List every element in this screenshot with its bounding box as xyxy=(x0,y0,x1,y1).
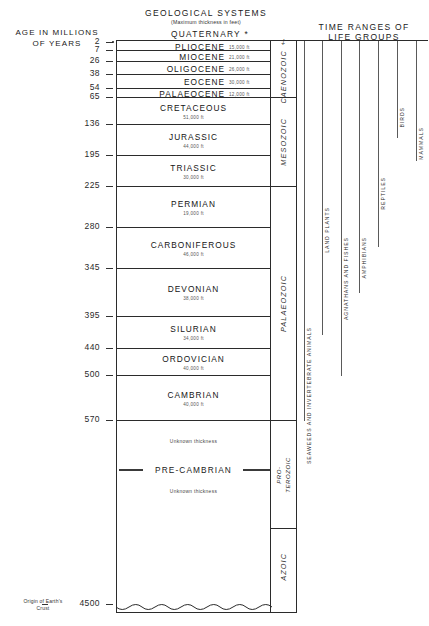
system-thickness: 34,000 ft xyxy=(117,336,270,341)
age-value: 65 xyxy=(60,91,100,101)
age-tick xyxy=(106,604,113,605)
age-tick xyxy=(106,186,113,187)
system-thickness: 19,000 ft xyxy=(117,211,270,216)
system-thickness: 30,000 ft xyxy=(117,175,270,180)
unknown-thickness-label: Unknown thickness xyxy=(117,489,270,494)
life-group-range-line xyxy=(378,41,379,247)
age-tick xyxy=(106,50,113,51)
system-thickness: 44,000 ft xyxy=(117,144,270,149)
geological-time-scale-chart: GEOLOGICAL SYSTEMS (Maximum thickness in… xyxy=(0,0,429,626)
system-name: PERMIAN xyxy=(117,199,270,209)
age-value: 570 xyxy=(60,414,100,424)
age-tick xyxy=(106,420,113,421)
origin-note-line2: Crust xyxy=(37,605,50,611)
wavy-base-line xyxy=(116,604,272,614)
system-thickness: 12,000 ft xyxy=(229,92,250,97)
era-label: PALAEOZOIC xyxy=(279,275,288,332)
age-tick xyxy=(106,61,113,62)
systems-title: GEOLOGICAL SYSTEMS xyxy=(116,8,296,18)
system-thickness: 15,000 ft xyxy=(229,45,250,50)
era-label: CAENOZOIC ‡ xyxy=(279,37,288,104)
life-group-label: AGNATHANS AND FISHES xyxy=(343,237,349,320)
life-group-range-line xyxy=(359,41,360,293)
unknown-thickness-label: Unknown thickness xyxy=(117,439,270,444)
system-thickness: 38,000 ft xyxy=(117,296,270,301)
age-tick xyxy=(106,227,113,228)
era-cell: MESOZOIC xyxy=(271,98,296,187)
system-name: MIOCENE xyxy=(117,52,225,62)
system-row xyxy=(117,421,270,605)
age-value: 280 xyxy=(60,221,100,231)
system-name: CARBONIFEROUS xyxy=(117,240,270,250)
system-thickness: 26,000 ft xyxy=(229,67,250,72)
origin-note-line1: Origin of Earth's xyxy=(23,598,62,604)
age-value: 38 xyxy=(60,68,100,78)
life-groups-panel: SEAWEEDS AND INVERTEBRATE ANIMALSLAND PL… xyxy=(297,40,428,613)
quaternary-marker-dot xyxy=(112,41,114,43)
system-thickness: 40,000 ft xyxy=(117,366,270,371)
life-group-range-line xyxy=(416,41,417,161)
age-value: 345 xyxy=(60,262,100,272)
era-cell: CAENOZOIC ‡ xyxy=(271,43,296,98)
system-name: CAMBRIAN xyxy=(117,390,270,400)
geological-systems-column: PLIOCENE15,000 ftMIOCENE21,000 ftOLIGOCE… xyxy=(116,40,271,613)
age-tick xyxy=(106,155,113,156)
era-label: AZOIC xyxy=(279,553,288,581)
life-group-range-line xyxy=(341,41,342,376)
era-column: CAENOZOIC ‡MESOZOICPALAEOZOICPRO-TEROZOI… xyxy=(271,40,297,613)
life-group-label: BIRDS xyxy=(399,107,405,128)
age-value: 26 xyxy=(60,55,100,65)
life-group-range-line xyxy=(304,41,305,421)
age-value: 136 xyxy=(60,118,100,128)
system-name: EOCENE xyxy=(117,77,225,87)
life-group-label: MAMMALS xyxy=(418,127,424,160)
system-thickness: 21,000 ft xyxy=(229,55,250,60)
quaternary-header: QUATERNARY * xyxy=(150,29,270,39)
system-name: SILURIAN xyxy=(117,324,270,334)
age-tick xyxy=(106,268,113,269)
life-group-label: AMPHIBIANS xyxy=(361,237,367,278)
age-value: 395 xyxy=(60,310,100,320)
age-value: 440 xyxy=(60,342,100,352)
life-group-range-line xyxy=(322,41,323,335)
age-value: 7 xyxy=(60,44,100,54)
age-tick xyxy=(106,375,113,376)
age-tick xyxy=(106,316,113,317)
age-tick xyxy=(106,74,113,75)
system-thickness: 51,000 ft xyxy=(117,115,270,120)
life-group-label: LAND PLANTS xyxy=(324,207,330,253)
life-groups-title-line1: TIME RANGES OF xyxy=(300,22,428,32)
system-thickness: 30,000 ft xyxy=(229,80,250,85)
system-thickness: 40,000 ft xyxy=(117,402,270,407)
system-name: JURASSIC xyxy=(117,132,270,142)
era-cell: PRO-TEROZOIC xyxy=(271,421,296,529)
system-name: DEVONIAN xyxy=(117,284,270,294)
system-name: CRETACEOUS xyxy=(117,103,270,113)
age-tick xyxy=(106,124,113,125)
era-cell: PALAEOZOIC xyxy=(271,187,296,421)
age-tick xyxy=(106,88,113,89)
era-label: PRO-TEROZOIC xyxy=(275,457,293,493)
system-name: OLIGOCENE xyxy=(117,64,225,74)
era-cell: AZOIC xyxy=(271,529,296,605)
life-group-label: REPTILES xyxy=(380,177,386,210)
system-thickness: 46,000 ft xyxy=(117,252,270,257)
life-group-label: SEAWEEDS AND INVERTEBRATE ANIMALS xyxy=(306,327,312,464)
age-value: 500 xyxy=(60,369,100,379)
era-label: MESOZOIC xyxy=(279,118,288,166)
pre-cambrian-rule-right xyxy=(243,469,270,471)
age-value: 195 xyxy=(60,149,100,159)
life-group-range-line xyxy=(397,41,398,138)
system-name: PALAEOCENE xyxy=(117,89,225,99)
system-name: ORDOVICIAN xyxy=(117,354,270,364)
system-name: TRIASSIC xyxy=(117,163,270,173)
age-tick xyxy=(106,97,113,98)
systems-subtitle: (Maximum thickness in feet) xyxy=(116,19,296,25)
age-value: 225 xyxy=(60,180,100,190)
origin-of-earth-note: Origin of Earth's Crust xyxy=(6,598,80,612)
pre-cambrian-rule-left xyxy=(119,469,143,471)
age-tick xyxy=(106,348,113,349)
